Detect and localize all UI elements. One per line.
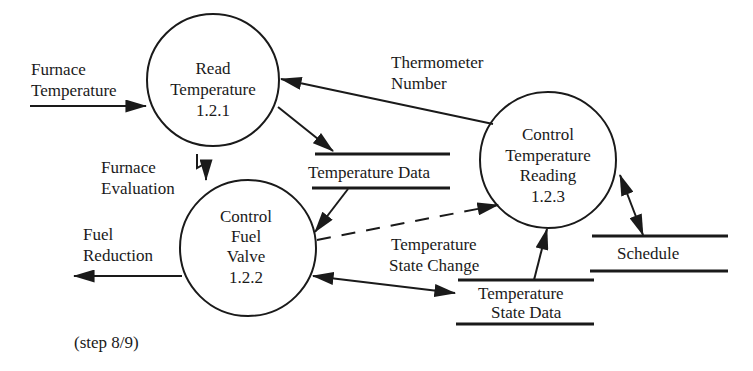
flow-fuel-reduction: Fuel Reduction — [74, 225, 182, 276]
flow-label: Temperature — [391, 235, 477, 254]
process-label: Temperature — [170, 80, 256, 99]
step-indicator: (step 8/9) — [74, 333, 139, 352]
flow-label: Furnace — [31, 60, 86, 79]
process-control-fuel-valve: Control Fuel Valve 1.2.2 — [180, 180, 316, 316]
process-label: Fuel — [231, 227, 262, 246]
flow-label: Evaluation — [101, 179, 175, 198]
flow-furnace-evaluation: Furnace Evaluation — [101, 154, 206, 198]
process-label: Temperature — [505, 146, 591, 165]
data-flow-diagram: Read Temperature 1.2.1 Control Fuel Valv… — [0, 0, 753, 371]
process-label: Read — [196, 59, 231, 78]
process-label: Reading — [520, 166, 577, 185]
process-label: Control — [522, 125, 574, 144]
store-label: Temperature — [478, 284, 564, 303]
flow-label: Furnace — [101, 158, 156, 177]
store-label: Schedule — [617, 244, 679, 263]
flow-label: State Change — [389, 256, 479, 275]
process-label: Control — [220, 207, 272, 226]
store-schedule: Schedule — [590, 236, 728, 271]
flow-label: Number — [391, 74, 447, 93]
process-label: Valve — [227, 247, 266, 266]
process-control-temperature-reading: Control Temperature Reading 1.2.3 — [480, 92, 616, 228]
flow-label: Reduction — [83, 246, 153, 265]
process-id: 1.2.1 — [196, 101, 230, 120]
store-temperature-data: Temperature Data — [308, 154, 450, 188]
flow-p1-to-temperature-data — [278, 107, 333, 151]
flow-label: Thermometer — [391, 53, 484, 72]
flow-furnace-temperature: Furnace Temperature — [30, 60, 146, 106]
flow-p3-schedule — [620, 175, 643, 235]
flow-temperature-state-change: Temperature State Change — [317, 205, 498, 275]
store-temperature-state-data: Temperature State Data — [456, 280, 594, 324]
flow-thermometer-number: Thermometer Number — [281, 53, 493, 124]
process-id: 1.2.3 — [531, 187, 565, 206]
store-label: Temperature Data — [308, 163, 430, 182]
flow-temperature-data-to-p2 — [315, 189, 348, 232]
flow-p2-temperature-state-data — [313, 276, 455, 293]
process-read-temperature: Read Temperature 1.2.1 — [147, 14, 279, 146]
process-id: 1.2.2 — [229, 268, 263, 287]
flow-temperature-state-data-to-p3 — [534, 229, 547, 280]
store-label: State Data — [491, 303, 562, 322]
flow-label: Temperature — [31, 81, 117, 100]
flow-label: Fuel — [83, 225, 114, 244]
